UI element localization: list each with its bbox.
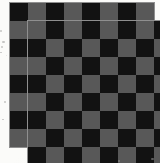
scan-specks-layer: [0, 0, 160, 163]
scan-speck: [2, 41, 5, 43]
scan-speck: [151, 158, 154, 160]
scan-speck: [4, 101, 6, 103]
scan-speck: [1, 46, 3, 48]
scan-speck: [2, 119, 4, 120]
image-canvas: [0, 0, 160, 163]
scan-speck: [118, 160, 120, 162]
scan-speck: [0, 30, 2, 32]
scan-speck: [0, 52, 2, 53]
